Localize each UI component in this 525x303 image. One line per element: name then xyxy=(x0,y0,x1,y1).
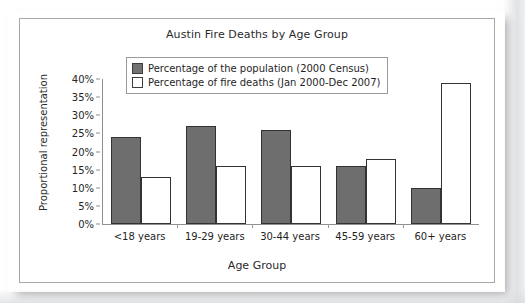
legend-label-fire-deaths: Percentage of fire deaths (Jan 2000-Dec … xyxy=(148,77,380,88)
bar xyxy=(336,166,366,224)
y-tick-mark xyxy=(96,115,100,116)
bar-group xyxy=(253,79,328,224)
filled-gray-swatch-icon xyxy=(132,63,143,74)
y-tick-label: 5% xyxy=(78,200,94,211)
y-tick-mark xyxy=(96,169,100,170)
x-tick-label: 30-44 years xyxy=(252,231,327,242)
y-tick-label: 40% xyxy=(72,74,94,85)
bar xyxy=(216,166,246,224)
x-tick-label: <18 years xyxy=(102,231,177,242)
bar xyxy=(366,159,396,224)
outlined-white-swatch-icon xyxy=(132,77,143,88)
legend-item-population: Percentage of the population (2000 Censu… xyxy=(132,61,380,75)
y-tick-label: 0% xyxy=(78,219,94,230)
plot-wrapper: 0%5%10%15%20%25%30%35%40% xyxy=(64,79,478,224)
y-tick-mark xyxy=(96,224,100,225)
x-tick-label: 45-59 years xyxy=(328,231,403,242)
x-tick-label: 19-29 years xyxy=(177,231,252,242)
x-tick-mark xyxy=(252,224,253,228)
x-tick-label: 60+ years xyxy=(403,231,478,242)
x-tick-mark xyxy=(177,224,178,228)
y-tick-mark xyxy=(96,151,100,152)
plot-area xyxy=(102,79,479,225)
bar xyxy=(186,126,216,224)
bar xyxy=(141,177,171,224)
y-axis-ticks: 0%5%10%15%20%25%30%35%40% xyxy=(64,79,100,224)
y-tick-mark xyxy=(96,133,100,134)
y-tick-label: 25% xyxy=(72,128,94,139)
bar xyxy=(261,130,291,224)
x-tick-mark xyxy=(403,224,404,228)
y-tick-mark xyxy=(96,97,100,98)
y-tick-mark xyxy=(96,79,100,80)
bar xyxy=(291,166,321,224)
y-tick-label: 10% xyxy=(72,182,94,193)
bar-groups xyxy=(103,79,479,224)
chart-legend: Percentage of the population (2000 Censu… xyxy=(126,57,388,94)
y-tick-label: 35% xyxy=(72,92,94,103)
y-tick-mark xyxy=(96,205,100,206)
page-edge-highlight-right xyxy=(503,0,525,303)
x-tick-mark xyxy=(328,224,329,228)
y-tick-label: 20% xyxy=(72,146,94,157)
bar-group xyxy=(329,79,404,224)
y-tick-label: 15% xyxy=(72,164,94,175)
chart-title: Austin Fire Deaths by Age Group xyxy=(20,28,494,41)
y-tick-mark xyxy=(96,187,100,188)
bar-group xyxy=(103,79,178,224)
bar xyxy=(441,83,471,224)
x-axis-title: Age Group xyxy=(20,259,494,272)
y-axis-title: Proportional representation xyxy=(38,58,49,228)
scanned-page-background: Austin Fire Deaths by Age Group Percenta… xyxy=(0,0,525,303)
bar-group xyxy=(404,79,479,224)
x-axis-tick-labels: <18 years19-29 years30-44 years45-59 yea… xyxy=(102,231,478,242)
chart-figure: Austin Fire Deaths by Age Group Percenta… xyxy=(19,18,495,283)
legend-item-fire-deaths: Percentage of fire deaths (Jan 2000-Dec … xyxy=(132,75,380,89)
bar xyxy=(411,188,441,224)
legend-label-population: Percentage of the population (2000 Censu… xyxy=(148,63,369,74)
y-tick-label: 30% xyxy=(72,110,94,121)
bar-group xyxy=(178,79,253,224)
bar xyxy=(111,137,141,224)
